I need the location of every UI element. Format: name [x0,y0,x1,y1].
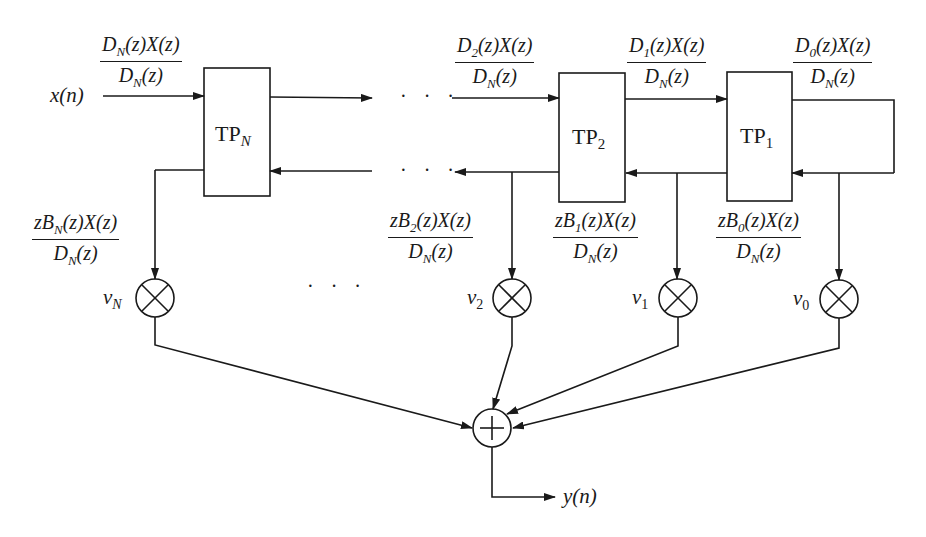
backward-signal-n: zBN(z)X(z) DN(z) [32,212,119,267]
forward-signal-2: D2(z)X(z) DN(z) [455,35,534,90]
sum-input-n [155,317,472,428]
tp-1-end-loop [792,100,894,173]
backward-signal-1: zB1(z)X(z) DN(z) [553,210,638,265]
ellipsis-top: · · · [400,86,460,106]
backward-signal-0: zB0(z)X(z) DN(z) [716,210,801,265]
coef-v-0: v0 [793,288,809,313]
coef-v-n: vN [103,287,122,312]
sum-input-0 [513,318,839,428]
sum-input-2 [493,317,512,409]
sum-input-1 [507,317,678,414]
ellipsis-bottom: · · · [400,160,460,180]
forward-signal-1: D1(z)X(z) DN(z) [627,35,706,90]
input-label: x(n) [50,85,84,106]
forward-signal-n: DN(z)X(z) DN(z) [100,34,182,89]
summer [473,409,511,447]
ellipsis-multipliers: · · · [307,276,367,296]
tp-n-forward-out [270,97,372,98]
multiplier-v-1 [659,279,697,317]
block-label-tp-1: TP1 [740,125,773,151]
multiplier-v-0 [820,280,858,318]
multiplier-v-2 [493,279,531,317]
output-label: y(n) [563,486,597,507]
block-label-tp-2: TP2 [572,126,605,152]
backward-signal-2: zB2(z)X(z) DN(z) [388,210,473,265]
coef-v-1: v1 [632,287,648,312]
forward-signal-0: D0(z)X(z) DN(z) [793,35,872,90]
multiplier-v-n [136,279,174,317]
coef-v-2: v2 [467,287,483,312]
output-arrow [492,447,555,497]
block-label-tp-n: TPN [215,123,251,149]
